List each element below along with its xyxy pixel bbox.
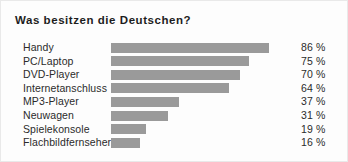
bar-category-label: MP3-Player — [23, 95, 79, 109]
bar-fill — [111, 97, 179, 107]
bar-track — [111, 124, 295, 134]
bar-category-label: Flachbildfernseher — [23, 136, 111, 150]
bar-category-label: Handy — [23, 41, 54, 55]
bar-track — [111, 138, 295, 148]
bar-value-label: 75 % — [301, 55, 325, 69]
bar-category-label: Internetanschluss — [23, 82, 107, 96]
bar-value-label: 16 % — [301, 136, 325, 150]
bar-value-label: 64 % — [301, 82, 325, 96]
bar-value-label: 19 % — [301, 123, 325, 137]
bar-value-label: 86 % — [301, 41, 325, 55]
infographic-panel: Was besitzen die Deutschen? Handy 86 % P… — [0, 0, 348, 162]
bar-category-label: PC/Laptop — [23, 55, 74, 69]
bar-value-label: 70 % — [301, 68, 325, 82]
bar-track — [111, 70, 295, 80]
page-title: Was besitzen die Deutschen? — [15, 14, 191, 26]
bar-category-label: Neuwagen — [23, 109, 74, 123]
bar-chart: Handy 86 % PC/Laptop 75 % DVD-Player 70 … — [1, 41, 348, 150]
bar-track — [111, 56, 295, 66]
bar-category-label: DVD-Player — [23, 68, 79, 82]
bar-fill — [111, 124, 146, 134]
table-row: Internetanschluss 64 % — [1, 82, 348, 96]
bar-value-label: 37 % — [301, 95, 325, 109]
bar-track — [111, 43, 295, 53]
bar-fill — [111, 83, 229, 93]
table-row: DVD-Player 70 % — [1, 68, 348, 82]
bar-fill — [111, 56, 249, 66]
bar-fill — [111, 111, 168, 121]
bar-fill — [111, 70, 240, 80]
table-row: Handy 86 % — [1, 41, 348, 55]
table-row: Flachbildfernseher 16 % — [1, 136, 348, 150]
bar-category-label: Spielekonsole — [23, 123, 90, 137]
bar-fill — [111, 138, 140, 148]
bar-value-label: 31 % — [301, 109, 325, 123]
bar-track — [111, 111, 295, 121]
table-row: Neuwagen 31 % — [1, 109, 348, 123]
table-row: MP3-Player 37 % — [1, 95, 348, 109]
bar-track — [111, 97, 295, 107]
table-row: PC/Laptop 75 % — [1, 55, 348, 69]
bar-fill — [111, 43, 269, 53]
bar-track — [111, 83, 295, 93]
table-row: Spielekonsole 19 % — [1, 123, 348, 137]
